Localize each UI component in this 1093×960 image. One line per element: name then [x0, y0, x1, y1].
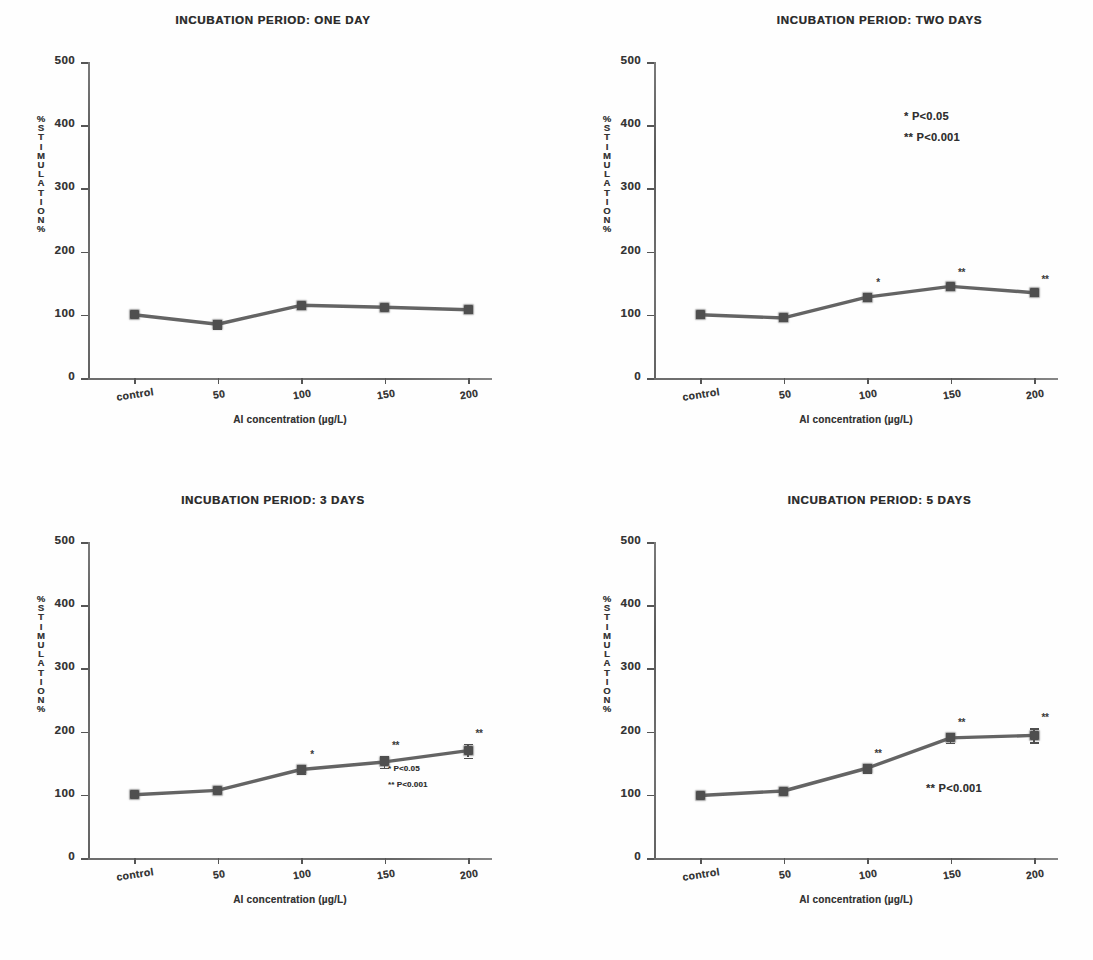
data-point-marker — [779, 787, 788, 796]
panel-title: INCUBATION PERIOD: 5 DAYS — [666, 494, 1093, 506]
plot-area: %STIMULATION% 5004003002001000 control50… — [88, 62, 498, 378]
x-tick-label: 50 — [211, 867, 225, 881]
y-axis-title-char: % — [603, 704, 611, 713]
data-point-marker — [297, 765, 306, 774]
y-tick: 100 — [647, 795, 654, 797]
x-tick-label: 150 — [941, 387, 961, 402]
panel-five-days: INCUBATION PERIOD: 5 DAYS %STIMULATION% … — [546, 480, 1093, 960]
y-tick-label: 100 — [55, 787, 75, 799]
x-tick — [1034, 378, 1036, 384]
data-point-marker — [1030, 288, 1039, 297]
data-point-marker — [1030, 731, 1039, 740]
y-tick: 400 — [647, 605, 654, 607]
x-tick — [700, 858, 702, 864]
y-tick-label: 500 — [55, 54, 75, 66]
y-tick-label: 400 — [621, 597, 641, 609]
x-tick-label: 50 — [777, 387, 791, 401]
significance-marker: ** — [958, 267, 965, 278]
panel-two-days: INCUBATION PERIOD: TWO DAYS %STIMULATION… — [546, 0, 1093, 480]
y-tick: 400 — [81, 125, 88, 127]
x-tick-label: 150 — [375, 867, 395, 882]
y-tick: 400 — [81, 605, 88, 607]
y-tick-label: 400 — [55, 117, 75, 129]
panel-three-days: INCUBATION PERIOD: 3 DAYS %STIMULATION% … — [0, 480, 546, 960]
y-tick-label: 300 — [621, 660, 641, 672]
x-tick-label: 200 — [1025, 867, 1045, 882]
data-point-marker — [213, 320, 222, 329]
y-tick-label: 300 — [621, 180, 641, 192]
data-point-marker — [464, 746, 473, 755]
data-point-marker — [779, 313, 788, 322]
y-tick-label: 500 — [55, 534, 75, 546]
panel-one-day: INCUBATION PERIOD: ONE DAY %STIMULATION%… — [0, 0, 546, 480]
x-tick — [951, 858, 953, 864]
y-tick-label: 500 — [621, 534, 641, 546]
y-tick: 100 — [81, 315, 88, 317]
y-tick-label: 100 — [621, 787, 641, 799]
x-tick — [385, 858, 387, 864]
significance-marker: ** — [392, 740, 399, 751]
data-series-line — [654, 62, 1064, 378]
legend-item: ** P<0.001 — [388, 780, 427, 789]
data-point-marker — [297, 301, 306, 310]
x-tick-label: 50 — [777, 867, 791, 881]
y-tick-label: 0 — [634, 370, 641, 382]
x-tick-label: 100 — [292, 867, 312, 882]
x-tick — [301, 858, 303, 864]
x-tick-label: control — [681, 865, 720, 883]
y-tick: 500 — [647, 542, 654, 544]
x-tick-label: control — [115, 865, 154, 883]
y-tick: 0 — [81, 378, 88, 380]
x-tick — [218, 858, 220, 864]
y-tick: 0 — [81, 858, 88, 860]
x-tick — [784, 858, 786, 864]
panel-title: INCUBATION PERIOD: 3 DAYS — [0, 494, 546, 506]
x-axis-line — [88, 378, 492, 380]
x-tick-label: control — [681, 385, 720, 403]
legend-item: ** P<0.001 — [926, 782, 982, 794]
data-point-marker — [946, 282, 955, 291]
panel-title: INCUBATION PERIOD: TWO DAYS — [666, 14, 1093, 26]
x-tick — [951, 378, 953, 384]
data-point-marker — [863, 764, 872, 773]
x-axis-title: Al concentration (µg/L) — [88, 894, 492, 905]
significance-marker: ** — [958, 717, 965, 728]
data-point-marker — [130, 790, 139, 799]
y-tick-label: 100 — [55, 307, 75, 319]
x-tick — [867, 378, 869, 384]
panel-title: INCUBATION PERIOD: ONE DAY — [0, 14, 546, 26]
y-tick: 400 — [647, 125, 654, 127]
data-series-line — [88, 62, 498, 378]
data-point-marker — [380, 303, 389, 312]
x-tick — [1034, 858, 1036, 864]
y-tick-label: 0 — [68, 850, 75, 862]
x-tick — [784, 378, 786, 384]
legend-item: * P<0.05 — [904, 110, 960, 122]
y-tick-label: 200 — [55, 724, 75, 736]
y-tick: 0 — [647, 378, 654, 380]
x-axis-title: Al concentration (µg/L) — [654, 414, 1058, 425]
y-axis-title-char: % — [37, 224, 45, 233]
y-axis-title-char: % — [603, 224, 611, 233]
significance-marker: ** — [1042, 712, 1049, 723]
error-bar-cap — [464, 758, 473, 760]
plot-area: %STIMULATION% 5004003002001000 control50… — [654, 542, 1064, 858]
y-tick: 300 — [81, 668, 88, 670]
y-tick: 0 — [647, 858, 654, 860]
error-bar-cap — [946, 743, 955, 745]
y-axis-title: %STIMULATION% — [32, 594, 50, 714]
significance-legend: * P<0.05 ** P<0.001 — [388, 764, 427, 796]
x-tick — [468, 378, 470, 384]
y-tick-label: 0 — [68, 370, 75, 382]
x-axis-line — [654, 858, 1058, 860]
y-tick: 200 — [647, 732, 654, 734]
data-point-marker — [213, 786, 222, 795]
x-axis-title: Al concentration (µg/L) — [654, 894, 1058, 905]
x-tick — [385, 378, 387, 384]
y-tick: 300 — [81, 188, 88, 190]
significance-marker: ** — [875, 748, 882, 759]
x-tick-label: control — [115, 385, 154, 403]
x-tick-label: 100 — [292, 387, 312, 402]
y-tick-label: 200 — [621, 244, 641, 256]
y-tick-label: 300 — [55, 180, 75, 192]
